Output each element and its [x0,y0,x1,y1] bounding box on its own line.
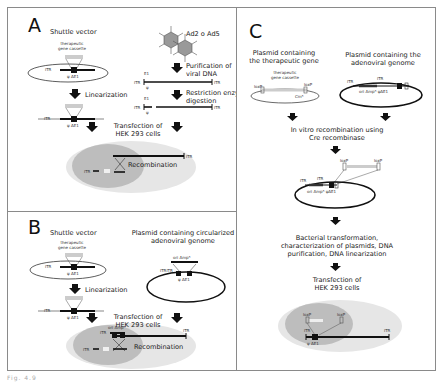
loxp-label: loxP [254,84,262,89]
virus-label: Ad2 o Ad5 [186,30,220,38]
loxp-label: loxP [304,82,312,87]
loxp-label: loxP [374,158,382,163]
itr-label: ITR [300,178,306,183]
psi-de1-label: ψ ΔE1 [178,277,190,282]
arrow-purification [171,63,183,73]
itr-label: ITR [45,67,51,72]
restriction-line2: digestion [186,97,216,105]
panel-c: C Plasmid containing the therapeutic gen… [236,7,436,371]
cassette-box [65,55,83,59]
e1-label: E1 [144,96,149,101]
loxp-label: loxP [337,312,345,317]
itr-label: ITR [134,80,140,85]
arrow-transfection [330,263,341,271]
figure-caption: Fig. 4.9 [7,374,37,381]
shuttle-plasmid-ellipse [28,64,108,82]
arrow-bacterial [330,217,341,225]
bacterial-line3: purification, DNA linearization [257,250,417,258]
ori-amp-label: ori Ampᴿ [173,255,190,260]
arrow-linearization [69,89,81,99]
itr-label: ITR [134,105,140,110]
panel-a: A Shuttle vector therapeutic gene casset… [7,7,237,212]
itr-label: ITR [45,264,51,269]
itr-label: ITR [214,105,220,110]
itr-label: ITR [317,176,323,181]
psi-de1-label: ψ ΔE1 [67,123,79,128]
panel-b: B Shuttle vector therapeutic gene casset… [7,211,237,371]
recombination-label: Recombination [134,343,183,351]
itr-label: ITR [377,76,383,81]
itr-label: ITR [100,330,106,335]
transfection-line1: Transfection of [103,122,173,130]
itr-label: ITR [186,154,192,159]
adenoviral-plasmid-ellipse [340,83,422,107]
itr-label: ITR [44,308,50,313]
itr-label: ITR [183,328,189,333]
itr-label: ITR [384,328,390,333]
invitro-line2: Cre recombinase [277,134,397,142]
cmr-label: Cmᴿ [295,94,303,99]
recombination-label: Recombination [128,161,177,169]
purification-line2: viral DNA [186,70,217,78]
ori-amp-psi-label: ori Ampᴿ ψΔE1 [359,89,388,94]
transfection-line1: Transfection of [103,313,173,321]
psi-label: ψ [146,110,149,115]
arrow-transfection-left [86,122,98,132]
panel-a-graphics [8,8,238,213]
hek-cell-nucleus [285,303,353,345]
itr-label: ITR [304,328,310,333]
itr-label: ITR [84,169,90,174]
psi-de1-label: ψ ΔE1 [307,341,319,346]
itr-label: ITR [44,116,50,121]
arrow-invitro [330,146,341,154]
loxp-label: loxP [303,312,311,317]
linearization-label: Linearization [85,91,127,99]
psi-de1-label: ψ ΔE1 [67,271,79,276]
linearization-label: Linearization [85,286,127,294]
transfection-line2: HEK 293 cells [103,130,173,138]
loxp-label: loxP [340,158,348,163]
psi-de1-label: ψ ΔE1 [67,315,79,320]
invitro-line1: In vitro recombination using [277,126,397,134]
transfection-line1: Transfection of [297,276,377,284]
itr-label: ITR [214,80,220,85]
ori-amp-label: ori Ampᴿ [108,325,125,330]
e1-label: E1 [144,71,149,76]
psi-de1-label: ψ ΔE1 [67,74,79,79]
panel-c-graphics [237,8,437,372]
bacterial-line1: Bacterial transformation, [257,234,417,242]
transfection-line2: HEK 293 cells [297,284,377,292]
purification-line1: Purification of [186,62,231,70]
arrow-linearization [69,284,81,294]
ori-amp-psi-label: ori Ampᴿ ψΔE1 [307,189,336,194]
itr-label: ITR [347,79,353,84]
itr-itr-label: ITRITR [160,268,173,273]
bacterial-line2: characterization of plasmids, DNA [257,242,417,250]
arrow-restriction [171,90,183,100]
itr-label: ITR [83,347,89,352]
psi-label: ψ [146,85,149,90]
